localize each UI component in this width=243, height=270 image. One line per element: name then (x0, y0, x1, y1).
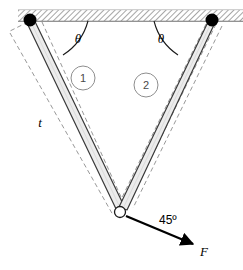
force-f-label: F (199, 244, 209, 259)
member-callouts: 1 2 (71, 66, 158, 97)
bar-1-centerline (31, 21, 122, 210)
bar-2-centerline (123, 21, 212, 208)
member-2-label: 2 (143, 79, 149, 91)
left-theta-label: θ (75, 31, 82, 46)
length-t-label: t (38, 115, 42, 130)
member-1-label: 1 (80, 72, 86, 84)
force-angle-label: 45º (159, 213, 177, 227)
diagram-canvas: 1 2 θ θ t 45º F (0, 0, 243, 270)
bar-2 (119, 21, 216, 211)
dashed-bar1-outer (10, 33, 113, 215)
dashed-bar2-far (133, 26, 222, 208)
right-theta-label: θ (158, 31, 165, 46)
engineering-diagram: 1 2 θ θ t 45º F (0, 0, 243, 270)
dashed-bar1-right (42, 22, 126, 208)
right-pin-joint (206, 14, 219, 27)
dashed-bar2-inner (116, 24, 206, 210)
left-pin-joint (24, 14, 37, 27)
bottom-pin-joint (115, 207, 126, 218)
